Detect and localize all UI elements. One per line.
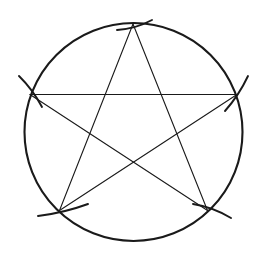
paper-background	[0, 0, 266, 255]
diagram-svg	[0, 0, 266, 255]
pentagram-figure: Pentagram inscribed in a circle	[0, 0, 266, 255]
